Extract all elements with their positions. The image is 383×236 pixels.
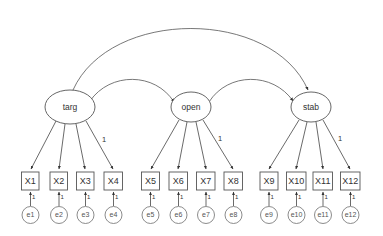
error-node-e2[interactable]: e2 [51, 207, 68, 224]
loading-path-stab-X11 [316, 122, 323, 169]
latent-label-stab: stab [303, 102, 319, 112]
loading-path-open-X8 [203, 120, 233, 169]
covariance-arcs [73, 29, 308, 103]
error-node-e4[interactable]: e4 [105, 207, 122, 224]
fixed-error-label-e2: 1 [61, 194, 65, 200]
fixed-error-label-e7: 1 [208, 194, 212, 200]
loading-path-targ-X4 [86, 121, 113, 169]
error-node-e9[interactable]: e9 [261, 207, 278, 224]
error-label-e12: e12 [345, 211, 357, 218]
error-node-e12[interactable]: e12 [342, 207, 359, 224]
fixed-loading-label-stab-X12: 1 [338, 134, 342, 143]
loading-path-targ-X3 [76, 124, 85, 169]
fixed-error-label-e4: 1 [115, 194, 119, 200]
error-label-e5: e5 [147, 211, 155, 218]
latent-label-targ: targ [63, 102, 78, 112]
indicator-node-X10[interactable]: X10 [287, 172, 307, 190]
error-label-e11: e11 [317, 211, 328, 218]
indicator-label-X3: X3 [80, 176, 91, 186]
loading-path-targ-X1 [31, 121, 56, 169]
fixed-error-label-e10: 1 [298, 194, 302, 200]
error-node-e1[interactable]: e1 [22, 207, 39, 224]
error-label-e7: e7 [202, 211, 210, 218]
indicator-node-X11[interactable]: X11 [313, 172, 333, 190]
indicator-label-X6: X6 [173, 176, 184, 186]
indicator-label-X5: X5 [145, 176, 156, 186]
indicator-node-X12[interactable]: X12 [341, 172, 361, 190]
indicator-label-X9: X9 [263, 176, 274, 186]
error-node-e5[interactable]: e5 [142, 207, 159, 224]
error-node-e10[interactable]: e10 [288, 207, 305, 224]
indicator-label-X2: X2 [53, 176, 64, 186]
fixed-loading-label-open-X8: 1 [218, 134, 222, 143]
diagram-canvas: targ open stab X1 X2 X3 [0, 0, 383, 236]
error-node-e11[interactable]: e11 [315, 207, 332, 224]
error-node-e6[interactable]: e6 [170, 207, 187, 224]
indicator-label-X12: X12 [342, 176, 358, 186]
fixed-error-label-e11: 1 [325, 194, 329, 200]
indicator-node-X3[interactable]: X3 [77, 172, 95, 190]
indicator-node-X2[interactable]: X2 [50, 172, 68, 190]
indicator-node-X5[interactable]: X5 [142, 172, 160, 190]
error-label-e6: e6 [175, 211, 183, 218]
fixed-error-label-e8: 1 [235, 194, 239, 200]
indicator-label-X1: X1 [25, 176, 36, 186]
error-label-e2: e2 [55, 211, 63, 218]
covariance-arc-open-stab [209, 79, 293, 102]
error-label-e10: e10 [291, 211, 303, 218]
loading-path-open-X5 [151, 120, 179, 169]
fixed-error-label-e12: 1 [352, 194, 356, 200]
indicator-label-X10: X10 [288, 176, 304, 186]
fixed-error-label-e9: 1 [271, 194, 275, 200]
error-label-e8: e8 [230, 211, 238, 218]
loading-path-stab-X12 [323, 120, 350, 169]
latent-node-stab[interactable]: stab [291, 92, 331, 122]
fixed-error-label-e3: 1 [87, 194, 91, 200]
indicator-node-X6[interactable]: X6 [169, 172, 188, 190]
error-node-e7[interactable]: e7 [198, 207, 215, 224]
covariance-arc-targ-open [90, 79, 174, 102]
indicator-node-X7[interactable]: X7 [197, 172, 216, 190]
loading-path-open-X6 [178, 122, 187, 169]
error-label-e4: e4 [110, 211, 118, 218]
error-terms: e1 e2 e3 e4 e5 e6 [22, 207, 359, 224]
fixed-error-label-e6: 1 [180, 194, 184, 200]
loading-path-targ-X2 [59, 124, 65, 169]
indicator-label-X11: X11 [315, 176, 330, 186]
indicator-label-X7: X7 [200, 176, 211, 186]
covariance-arc-targ-stab [73, 29, 308, 91]
fixed-loading-labels: 1 1 1 [102, 134, 342, 144]
fixed-error-label-e1: 1 [32, 194, 36, 200]
latent-node-open[interactable]: open [171, 92, 211, 122]
latent-node-targ[interactable]: targ [45, 90, 95, 124]
error-node-e8[interactable]: e8 [225, 207, 242, 224]
loading-path-stab-X9 [269, 120, 299, 169]
indicator-node-X9[interactable]: X9 [260, 172, 278, 190]
indicator-node-X4[interactable]: X4 [104, 172, 123, 190]
indicator-label-X8: X8 [228, 176, 239, 186]
latent-label-open: open [182, 102, 201, 112]
fixed-error-loading-labels: 1 1 1 1 1 1 1 1 1 1 1 1 [32, 194, 356, 200]
error-node-e3[interactable]: e3 [77, 207, 94, 224]
indicator-boxes: X1 X2 X3 X4 X5 X6 [22, 172, 361, 190]
fixed-loading-label-targ-X4: 1 [102, 135, 106, 144]
factor-loading-paths [31, 120, 350, 169]
error-label-e9: e9 [265, 211, 273, 218]
loading-path-open-X7 [196, 122, 206, 169]
fixed-error-label-e5: 1 [152, 194, 156, 200]
loading-path-stab-X10 [296, 122, 307, 169]
error-paths [31, 192, 351, 206]
error-label-e3: e3 [82, 211, 90, 218]
indicator-label-X4: X4 [108, 176, 119, 186]
indicator-node-X1[interactable]: X1 [22, 172, 40, 190]
error-label-e1: e1 [27, 211, 35, 218]
indicator-node-X8[interactable]: X8 [224, 172, 243, 190]
sem-path-diagram: targ open stab X1 X2 X3 [0, 0, 383, 236]
